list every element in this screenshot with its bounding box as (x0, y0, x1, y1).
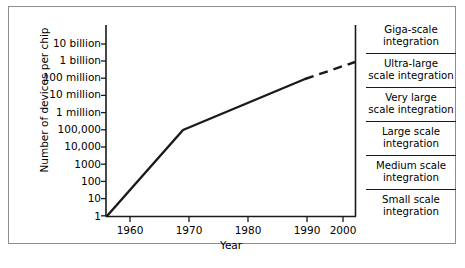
legend-line-1: Large scale (382, 126, 440, 137)
x-axis-title: Year (206, 239, 256, 251)
legend-row-large: Large scale integration (366, 121, 456, 155)
x-tick-label: 1960 (105, 225, 155, 236)
legend-line-1: Small scale (382, 194, 440, 205)
legend-row-very-large: Very large scale integration (366, 87, 456, 121)
integration-scale-legend: Giga-scale integration Ultra-large scale… (366, 19, 456, 222)
x-tick-label: 2000 (318, 225, 368, 236)
legend-row-giga: Giga-scale integration (366, 19, 456, 53)
series-historical-line (107, 79, 305, 216)
legend-line-1: Very large (385, 92, 437, 103)
legend-line-2: integration (383, 206, 439, 217)
legend-line-2: integration (383, 36, 439, 47)
x-axis-ticks (130, 217, 343, 223)
x-tick-label: 1980 (223, 225, 273, 236)
legend-line-2: scale integration (368, 104, 453, 115)
legend-row-small: Small scale integration (366, 189, 456, 223)
legend-line-1: Giga-scale (384, 24, 437, 35)
figure-container: Number of devices per chip 10 billion 1 … (0, 0, 465, 268)
legend-row-ultra-large: Ultra-large scale integration (366, 53, 456, 87)
legend-row-medium: Medium scale integration (366, 155, 456, 189)
legend-line-1: Medium scale (376, 160, 446, 171)
legend-line-2: integration (383, 172, 439, 183)
legend-line-2: scale integration (368, 70, 453, 81)
legend-line-2: integration (383, 138, 439, 149)
legend-line-1: Ultra-large (384, 58, 438, 69)
x-tick-label: 1970 (164, 225, 214, 236)
series-projected-line (305, 62, 355, 79)
